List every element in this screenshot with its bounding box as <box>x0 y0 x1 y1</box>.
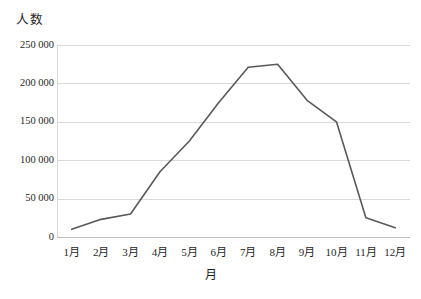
x-axis-tick-labels: 1月 2月 3月 4月 5月 6月 7月 8月 9月 10月 11月 12月 <box>57 243 410 263</box>
x-tick-label-12: 12月 <box>381 243 410 263</box>
y-tick-label-100000: 100 000 <box>2 155 54 166</box>
y-tick-label-200000: 200 000 <box>2 78 54 89</box>
x-tick-label-6: 6月 <box>204 243 233 263</box>
line-chart: 人数 250 000 200 000 150 000 100 000 50 00… <box>0 0 421 299</box>
series-line-people <box>57 45 410 237</box>
x-tick-label-4: 4月 <box>145 243 174 263</box>
x-tick-label-10: 10月 <box>322 243 351 263</box>
y-tick-label-250000: 250 000 <box>2 40 54 51</box>
plot-area <box>57 45 410 237</box>
x-tick-label-7: 7月 <box>234 243 263 263</box>
y-tick-label-150000: 150 000 <box>2 116 54 127</box>
y-tick-label-50000: 50 000 <box>2 193 54 204</box>
x-tick-label-2: 2月 <box>86 243 115 263</box>
x-axis-line <box>57 237 410 238</box>
x-tick-label-9: 9月 <box>292 243 321 263</box>
y-axis-tick-labels: 250 000 200 000 150 000 100 000 50 000 0 <box>0 0 54 299</box>
x-tick-label-1: 1月 <box>57 243 86 263</box>
x-tick-label-8: 8月 <box>263 243 292 263</box>
x-tick-label-5: 5月 <box>175 243 204 263</box>
y-tick-label-0: 0 <box>2 232 54 243</box>
x-axis-title: 月 <box>0 265 421 283</box>
x-tick-label-3: 3月 <box>116 243 145 263</box>
x-tick-label-11: 11月 <box>351 243 380 263</box>
